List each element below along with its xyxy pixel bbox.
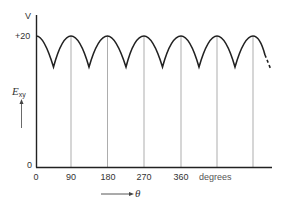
x-tick-0: 0: [33, 172, 38, 182]
y-direction-arrow: [20, 99, 24, 128]
x-axis-theta-label: θ: [135, 188, 140, 198]
y-axis-label-sub: xy: [19, 91, 26, 98]
x-tick-360: 360: [173, 172, 188, 182]
y-tick-top: +20: [15, 31, 30, 41]
y-axis-label: Exy: [12, 86, 26, 100]
y-tick-zero: 0: [27, 160, 32, 170]
y-unit-label: V: [25, 11, 31, 21]
gridlines: [71, 36, 253, 167]
x-tick-270: 270: [136, 172, 151, 182]
x-unit-label: degrees: [199, 172, 232, 182]
x-direction-arrow: [101, 192, 134, 196]
x-tick-90: 90: [66, 172, 76, 182]
y-axis-label-main: E: [12, 85, 19, 97]
data-curve-dashed-continuation: [265, 55, 271, 70]
x-tick-180: 180: [100, 172, 115, 182]
